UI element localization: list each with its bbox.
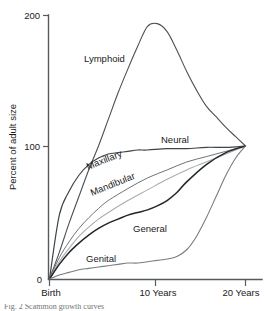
chart-series-group <box>50 23 246 279</box>
series-label-genital: Genital <box>86 253 116 264</box>
series-label-lymphoid: Lymphoid <box>84 53 125 64</box>
x-tick-label-birth: Birth <box>41 287 61 298</box>
x-tick-label-10-years: 10 Years <box>140 287 177 298</box>
series-curve-genital <box>50 146 246 279</box>
series-curve-lymphoid <box>50 23 246 279</box>
series-label-maxillary: Maxillary <box>85 148 124 172</box>
y-tick-label-0: 0 <box>37 274 42 285</box>
figure-caption-strip: Fig. 2 Scammon growth curves <box>0 304 270 311</box>
series-curve-general <box>50 146 246 279</box>
series-label-general: General <box>133 223 167 234</box>
series-label-mandibular: Mandibular <box>89 170 137 198</box>
series-curve-neural <box>50 146 246 279</box>
series-curve-mandibular <box>50 146 246 279</box>
figure-caption: Fig. 2 Scammon growth curves <box>4 304 104 311</box>
y-tick-label-100: 100 <box>24 141 40 152</box>
y-axis-title: Percent of adult size <box>7 104 18 190</box>
y-tick-label-200: 200 <box>24 10 40 21</box>
series-curve-maxillary <box>50 146 246 279</box>
growth-curves-figure: 200 100 0 Birth 10 Years 20 Years Percen… <box>0 0 270 311</box>
series-label-neural: Neural <box>161 134 189 145</box>
x-tick-label-20-years: 20 Years <box>223 287 260 298</box>
scammon-growth-chart: 200 100 0 Birth 10 Years 20 Years Percen… <box>0 0 270 311</box>
chart-annotations-group: LymphoidNeuralMaxillaryMandibularGeneral… <box>84 53 189 264</box>
